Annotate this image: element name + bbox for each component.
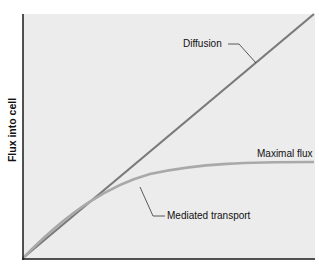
diffusion-label: Diffusion <box>183 38 222 49</box>
flux-chart: Flux into cell Diffusion Maximal flux Me… <box>0 0 319 265</box>
maximal-flux-label: Maximal flux <box>257 148 313 159</box>
chart-canvas <box>0 0 319 265</box>
y-axis-label: Flux into cell <box>6 80 18 180</box>
mediated-transport-label: Mediated transport <box>167 210 250 221</box>
